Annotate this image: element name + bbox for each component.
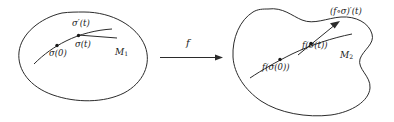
target-manifold-label-subscript: 2 <box>349 53 353 60</box>
sigma-0-label: σ(0) <box>49 49 67 58</box>
source-curve <box>34 29 112 64</box>
map-function-label: f <box>186 38 190 48</box>
target-manifold-outline <box>233 9 373 116</box>
diagram-canvas <box>0 0 394 122</box>
sigma-0-point <box>55 44 58 47</box>
f-sigma-0-point <box>278 58 281 61</box>
sigma-prime-t-label: σ′(t) <box>72 19 90 28</box>
f-sigma-0-label: f(σ(0)) <box>262 63 290 72</box>
source-tangent-line <box>78 35 117 38</box>
f-sigma-t-label: f(σ(t)) <box>302 41 328 50</box>
target-manifold-label-base: M <box>340 50 349 60</box>
f-sigma-prime-t-label: (f∘σ)′(t) <box>330 7 362 16</box>
source-manifold-label-base: M <box>115 47 124 57</box>
manifold-map-diagram: σ′(t) σ(t) σ(0) M1 f (f∘σ)′(t) f(σ(t)) f… <box>0 0 394 122</box>
target-manifold-label: M2 <box>340 51 353 60</box>
sigma-t-label: σ(t) <box>75 40 91 49</box>
source-manifold-label-subscript: 1 <box>124 50 128 57</box>
sigma-t-point <box>77 34 80 37</box>
map-arrow-head <box>215 55 223 61</box>
source-manifold-label: M1 <box>115 48 128 57</box>
